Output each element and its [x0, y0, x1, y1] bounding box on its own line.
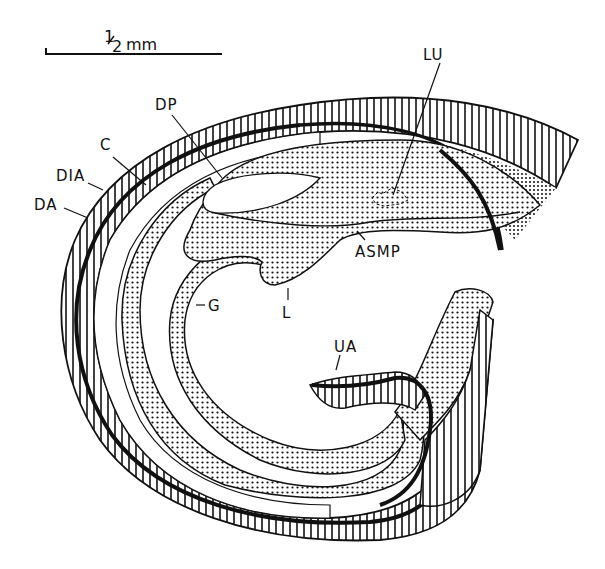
label-dia: DIA: [56, 167, 85, 185]
label-g: G: [208, 297, 221, 315]
scale-bar-denominator: 2: [112, 37, 122, 56]
label-c: C: [100, 136, 111, 154]
label-l: L: [282, 304, 291, 322]
label-da: DA: [34, 196, 58, 214]
label-ua: UA: [334, 338, 357, 356]
scale-bar: 1 2 mm: [45, 27, 222, 56]
anatomical-section-diagram: 1 2 mm LU DP C DIA DA: [0, 0, 605, 569]
label-dp: DP: [155, 96, 178, 114]
scale-bar-unit: mm: [126, 35, 157, 54]
label-lu: LU: [423, 46, 444, 64]
label-asmp: ASMP: [355, 243, 401, 261]
